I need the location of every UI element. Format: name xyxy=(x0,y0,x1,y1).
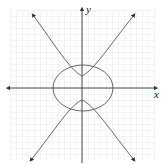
conic-graph: x y xyxy=(0,0,161,164)
y-axis-label: y xyxy=(85,3,91,15)
x-axis-label: x xyxy=(153,88,159,100)
grid xyxy=(10,10,155,160)
